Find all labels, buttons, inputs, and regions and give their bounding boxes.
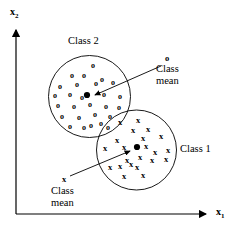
data-point-o: o	[104, 103, 108, 111]
data-point-o: o	[100, 76, 104, 84]
data-point-x: x	[146, 125, 150, 134]
class2-mean-label-line2: mean	[156, 75, 179, 86]
class2-label: Class 2	[68, 35, 99, 47]
data-point-o: o	[108, 113, 112, 121]
data-point-x: x	[164, 155, 168, 164]
class1-label: Class 1	[180, 143, 211, 155]
data-point-x: x	[115, 136, 119, 145]
class2-mean-key-marker: o	[165, 54, 169, 63]
x-axis-label-sub: 1	[221, 212, 225, 220]
data-point-o: o	[77, 114, 81, 122]
data-point-o: o	[94, 80, 98, 88]
data-point-x: x	[135, 163, 139, 172]
class1-mean-key-marker: x	[62, 175, 66, 184]
data-point-x: x	[144, 142, 148, 151]
data-point-o: o	[106, 124, 110, 132]
class1-mean-dot	[134, 144, 140, 150]
data-point-x: x	[103, 144, 107, 153]
data-point-o: o	[99, 120, 103, 128]
data-point-x: x	[118, 118, 122, 127]
data-point-o: o	[118, 93, 122, 101]
data-point-o: o	[117, 104, 121, 112]
y-axis-label-sub: 2	[15, 12, 19, 20]
data-point-x: x	[136, 116, 140, 125]
x-axis-label: x1	[216, 206, 225, 221]
class2-mean-label-line1: Class	[156, 63, 179, 74]
data-point-o: o	[82, 72, 86, 80]
data-point-x: x	[159, 132, 163, 141]
class1-mean-label-line1: Class	[51, 185, 74, 196]
data-point-o: o	[89, 122, 93, 130]
class1-mean-label-line2: mean	[51, 197, 74, 208]
data-point-o: o	[93, 111, 97, 119]
data-point-o: o	[60, 113, 64, 121]
data-point-o: o	[88, 101, 92, 109]
class2-mean-label: Class mean	[156, 63, 179, 87]
data-point-o: o	[91, 62, 95, 70]
data-point-x: x	[129, 160, 133, 169]
data-point-x: x	[141, 171, 145, 180]
data-point-x: x	[122, 172, 126, 181]
data-point-o: o	[102, 91, 106, 99]
data-point-o: o	[68, 91, 72, 99]
data-point-o: o	[70, 72, 74, 80]
data-point-o: o	[68, 123, 72, 131]
class1-mean-label: Class mean	[51, 185, 74, 209]
data-point-x: x	[131, 126, 135, 135]
data-point-x: x	[122, 143, 126, 152]
data-point-x: x	[138, 153, 142, 162]
data-point-x: x	[150, 156, 154, 165]
data-point-o: o	[75, 81, 79, 89]
class-cluster-figure: x2 x1 Class 2 Class 1 o Class mean x Cla…	[0, 0, 235, 238]
class2-mean-dot	[84, 92, 90, 98]
data-point-o: o	[72, 103, 76, 111]
data-point-o: o	[80, 94, 84, 102]
y-axis-label: x2	[10, 6, 19, 21]
data-point-o: o	[56, 102, 60, 110]
data-point-o: o	[111, 79, 115, 87]
data-point-o: o	[58, 83, 62, 91]
data-point-x: x	[108, 163, 112, 172]
data-point-x: x	[118, 162, 122, 171]
data-point-o: o	[82, 124, 86, 132]
data-point-o: o	[53, 92, 57, 100]
